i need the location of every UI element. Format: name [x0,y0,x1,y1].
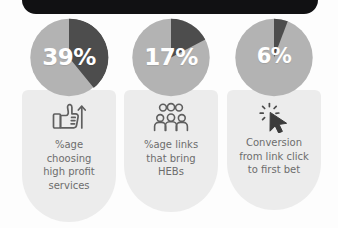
icon-slot-1 [121,96,221,138]
stat-card-high-profit-services: 39% %age choosing [19,18,119,228]
caption-line: high profit [23,165,115,179]
stat-card-conversion-first-bet: 6% Conversion from link cli [224,18,324,228]
infographic-stage: 39% %age choosing [0,0,338,228]
caption-line: services [23,179,115,193]
caption-line: to first bet [228,163,320,177]
caption-line: %age links [125,138,217,152]
pie-chart-39-percent [30,18,109,97]
people-group-icon [153,102,189,132]
pie-chart-17-percent [132,18,211,97]
card-caption-0: %age choosing high profit services [23,138,115,192]
card-caption-2: Conversion from link click to first bet [228,136,320,177]
caption-line: choosing [23,152,115,166]
caption-line: HEBs [125,165,217,179]
card-caption-1: %age links that bring HEBs [125,138,217,179]
stat-card-links-bring-hebs: 17% %ag [121,18,221,228]
caption-line: Conversion [228,136,320,150]
pie-chart-container-2: 6% [227,18,321,100]
caption-line: from link click [228,150,320,164]
pie-chart-container-1: 17% [124,18,218,100]
top-black-banner-bar [22,0,318,14]
caption-line: that bring [125,152,217,166]
pie-chart-6-percent [235,18,314,97]
cursor-click-icon [257,101,291,133]
thumbs-up-arrow-icon [51,101,87,133]
caption-line: %age [23,138,115,152]
icon-slot-0 [19,96,119,138]
stats-card-group: 39% %age choosing [0,18,338,228]
icon-slot-2 [224,96,324,138]
pie-chart-container-0: 39% [22,18,116,100]
